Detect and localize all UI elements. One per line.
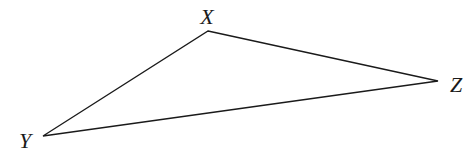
triangle-diagram: X Y Z [0,0,475,163]
vertex-label-x: X [199,4,215,29]
triangle-xyz [43,31,438,136]
vertex-label-y: Y [19,128,34,153]
vertex-label-z: Z [450,72,463,97]
